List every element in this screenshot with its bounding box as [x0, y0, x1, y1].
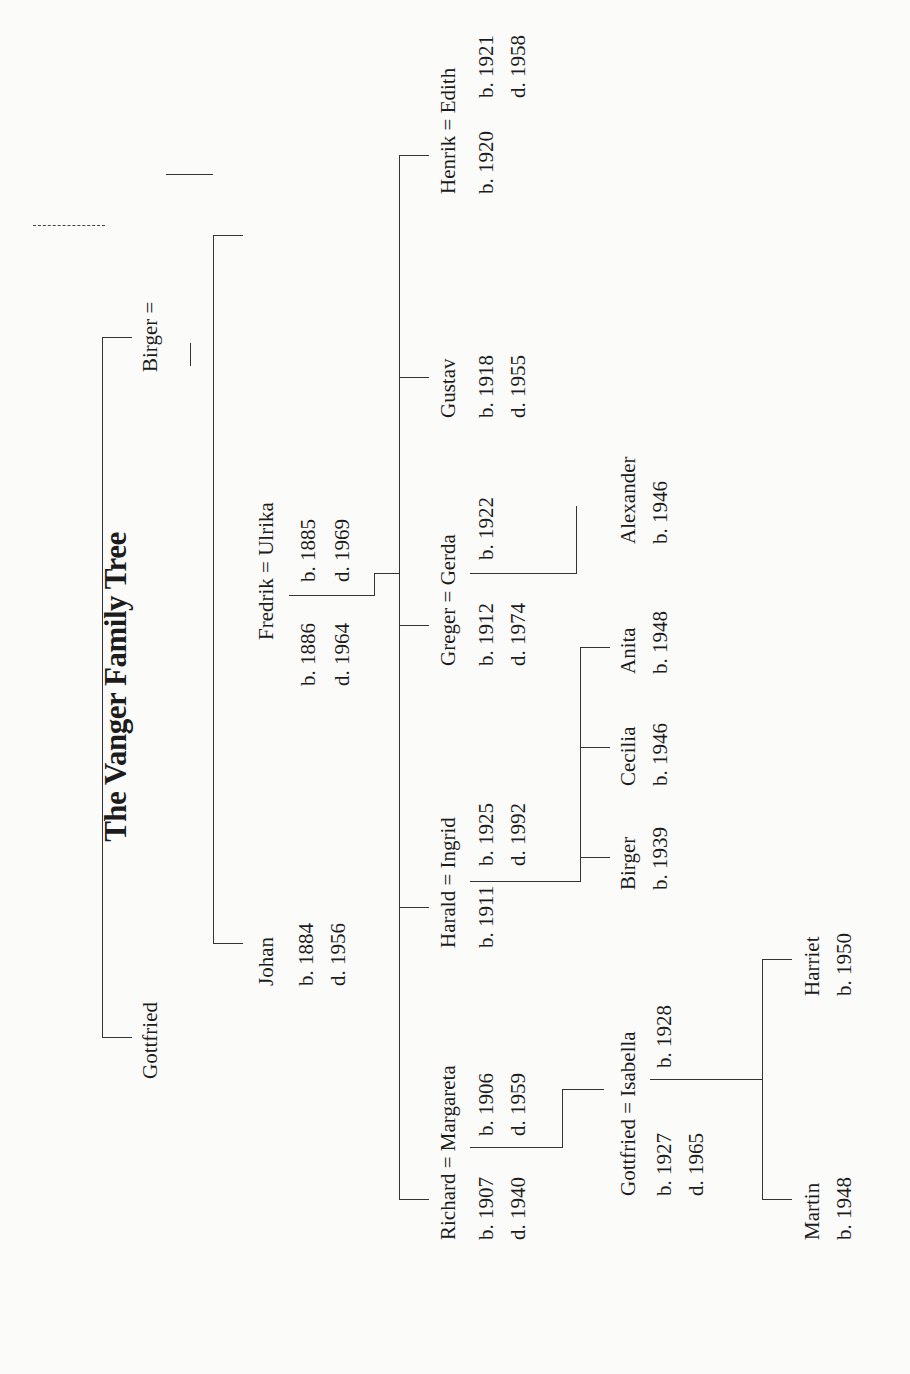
gen3-tick-gustav — [399, 377, 429, 378]
fredrik-died: d. 1964 — [330, 623, 354, 686]
gen1-tick-gottfried — [102, 1037, 132, 1038]
gen3-bracket-span — [399, 156, 400, 1200]
gottfried-children-span — [762, 960, 763, 1200]
margareta-born: b. 1906 — [474, 1073, 498, 1136]
edith-born: b. 1921 — [474, 35, 498, 98]
gen5-tick-harriet — [762, 959, 792, 960]
couple-gottfried-isabella: Gottfried = Isabella — [616, 1031, 640, 1196]
gen3-tick-henrik — [399, 155, 429, 156]
fredrik-connector — [374, 573, 399, 574]
edith-died: d. 1958 — [506, 35, 530, 98]
richard-child-stem-top — [562, 1090, 563, 1148]
person-harriet: Harriet b. 1950 — [800, 933, 856, 996]
gerda-born: b. 1922 — [474, 497, 498, 560]
margareta-died: d. 1959 — [506, 1073, 530, 1136]
gen4-tick-cecilia — [580, 747, 610, 748]
gen1-tick-birger — [102, 337, 132, 338]
ulrika-died: d. 1969 — [330, 519, 354, 582]
harald-marriage-line — [470, 881, 580, 882]
gen4-tick-anita — [580, 647, 610, 648]
fredrik-marriage-line — [289, 595, 375, 596]
birger-connector — [166, 174, 213, 175]
birger-descent-line — [190, 343, 214, 366]
gottfried-died: d. 1965 — [684, 1133, 708, 1196]
couple-harald-ingrid: Harald = Ingrid — [436, 817, 460, 948]
greger-marriage-line — [470, 573, 576, 574]
person-gottfried-sr: Gottfried — [138, 1002, 162, 1079]
gottfried-marriage-line — [650, 1079, 762, 1080]
henrik-born: b. 1920 — [474, 131, 498, 194]
harald-to-children — [580, 858, 581, 882]
gen4-tick-birger — [580, 857, 610, 858]
person-gustav: Gustav b. 1918 d. 1955 — [436, 355, 530, 418]
isabella-born: b. 1928 — [652, 1005, 676, 1068]
gen1-bracket-span — [102, 338, 103, 1038]
harald-born: b. 1911 — [474, 886, 498, 948]
greger-child-bar — [576, 506, 577, 574]
person-martin: Martin b. 1948 — [800, 1177, 856, 1240]
person-johan: Johan b. 1884 d. 1956 — [254, 923, 350, 986]
ulrika-born: b. 1885 — [296, 519, 320, 582]
richard-child-stem — [562, 1089, 604, 1090]
fredrik-connector-h — [374, 574, 375, 596]
richard-died: d. 1940 — [506, 1177, 530, 1240]
person-cecilia: Cecilia b. 1946 — [616, 723, 672, 786]
couple-fredrik-ulrika: Fredrik = Ulrika — [254, 502, 278, 640]
person-birger-jr: Birger b. 1939 — [616, 827, 672, 890]
couple-greger-gerda: Greger = Gerda — [436, 534, 460, 666]
person-alexander: Alexander b. 1946 — [616, 457, 672, 544]
couple-richard-margareta: Richard = Margareta — [436, 1065, 460, 1240]
gen2-tick-fredrik — [213, 235, 243, 236]
person-anita: Anita b. 1948 — [616, 611, 672, 674]
greger-died: d. 1974 — [506, 603, 530, 666]
gen5-tick-martin — [762, 1199, 792, 1200]
couple-henrik-edith: Henrik = Edith — [436, 68, 460, 194]
ingrid-died: d. 1992 — [506, 803, 530, 866]
ingrid-born: b. 1925 — [474, 803, 498, 866]
gen3-tick-greger — [399, 625, 429, 626]
family-tree-page: The Vanger Family Tree Gottfried Birger … — [0, 0, 910, 1374]
ancestor-dashed-line — [33, 153, 105, 226]
gen3-tick-harald — [399, 907, 429, 908]
person-birger-sr: Birger = — [138, 302, 162, 372]
richard-marriage-line — [470, 1147, 562, 1148]
gen2-bracket-span — [213, 236, 214, 944]
harald-children-span — [580, 648, 581, 858]
gen2-tick-johan — [213, 943, 243, 944]
gottfried-born: b. 1927 — [652, 1133, 676, 1196]
richard-born: b. 1907 — [474, 1177, 498, 1240]
greger-born: b. 1912 — [474, 603, 498, 666]
fredrik-born: b. 1886 — [296, 623, 320, 686]
gen3-tick-richard — [399, 1199, 429, 1200]
